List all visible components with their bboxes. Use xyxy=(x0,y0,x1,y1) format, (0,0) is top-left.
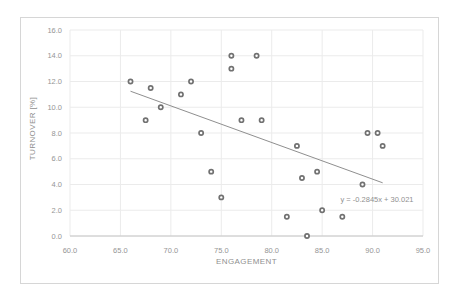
data-point xyxy=(320,208,324,212)
y-tick-label: 14.0 xyxy=(47,51,62,60)
y-tick-label: 6.0 xyxy=(52,154,62,163)
x-tick-label: 65.0 xyxy=(113,246,128,255)
chart-screenshot: 60.065.070.075.080.085.090.095.00.02.04.… xyxy=(0,0,465,302)
data-point xyxy=(179,92,183,96)
data-point xyxy=(209,170,213,174)
data-point xyxy=(360,182,364,186)
y-tick-label: 10.0 xyxy=(47,103,62,112)
x-tick-label: 60.0 xyxy=(63,246,78,255)
data-point xyxy=(159,105,163,109)
y-axis-title: TURNOVER [%] xyxy=(28,69,39,189)
data-point xyxy=(285,215,289,219)
data-point xyxy=(229,54,233,58)
data-point xyxy=(300,176,304,180)
y-tick-label: 8.0 xyxy=(52,129,62,138)
x-tick-label: 95.0 xyxy=(416,246,431,255)
data-point xyxy=(128,79,132,83)
x-tick-label: 75.0 xyxy=(214,246,229,255)
data-point xyxy=(340,215,344,219)
x-axis-title: ENGAGEMENT xyxy=(70,257,423,267)
data-point xyxy=(144,118,148,122)
y-tick-label: 4.0 xyxy=(52,180,62,189)
data-point xyxy=(305,234,309,238)
data-point xyxy=(260,118,264,122)
data-point xyxy=(315,170,319,174)
data-point xyxy=(239,118,243,122)
data-point xyxy=(254,54,258,58)
data-point xyxy=(149,86,153,90)
data-point xyxy=(189,79,193,83)
data-point xyxy=(376,131,380,135)
trendline-equation-label: y = -0.2845x + 30.021 xyxy=(336,195,418,205)
x-tick-label: 85.0 xyxy=(315,246,330,255)
data-point xyxy=(365,131,369,135)
trendline xyxy=(131,91,383,183)
data-point xyxy=(199,131,203,135)
x-tick-label: 70.0 xyxy=(164,246,179,255)
data-point xyxy=(219,195,223,199)
y-tick-label: 2.0 xyxy=(52,206,62,215)
y-tick-label: 0.0 xyxy=(52,232,62,241)
y-tick-label: 16.0 xyxy=(47,26,62,35)
data-point xyxy=(229,67,233,71)
y-tick-label: 12.0 xyxy=(47,77,62,86)
x-tick-label: 80.0 xyxy=(264,246,279,255)
data-point xyxy=(381,144,385,148)
data-point xyxy=(295,144,299,148)
x-tick-label: 90.0 xyxy=(365,246,380,255)
